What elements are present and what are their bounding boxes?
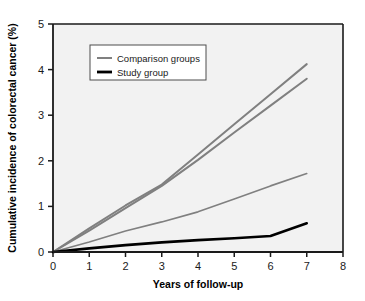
x-tick-label: 6 [267,260,273,272]
x-tick-label: 0 [50,260,56,272]
cumulative-incidence-line-chart: 012345 012345678 Comparison groupsStudy … [0,0,365,301]
y-tick-label: 5 [38,18,44,30]
y-tick-label: 0 [38,246,44,258]
y-tick-label: 3 [38,109,44,121]
x-tick-label: 8 [340,260,346,272]
legend-label: Comparison groups [117,53,200,64]
chart-figure: 012345 012345678 Comparison groupsStudy … [0,0,365,301]
y-tick-label: 4 [38,64,44,76]
y-tick-label: 2 [38,155,44,167]
x-tick-label: 3 [159,260,165,272]
x-tick-label: 2 [122,260,128,272]
x-axis-title: Years of follow-up [153,278,243,290]
chart-legend: Comparison groupsStudy group [90,45,206,80]
x-tick-label: 4 [195,260,201,272]
y-tick-label: 1 [38,200,44,212]
y-axis-title: Cumulative incidence of colorectal cance… [6,23,18,252]
x-tick-label: 7 [304,260,310,272]
x-tick-label: 1 [86,260,92,272]
x-tick-label: 5 [231,260,237,272]
legend-label: Study group [117,67,168,78]
